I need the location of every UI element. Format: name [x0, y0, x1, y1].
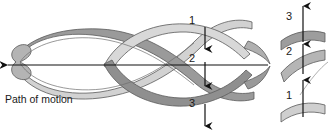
label-side-2: 2: [286, 45, 292, 57]
label-center-1: 1: [189, 14, 195, 26]
label-center-3: 3: [189, 97, 195, 109]
label-center-2: 2: [189, 52, 195, 64]
label-side-1: 1: [286, 89, 292, 101]
path-of-motion-caption: Path of motion: [5, 93, 73, 105]
label-side-3: 3: [286, 10, 292, 22]
wave-ribbon-diagram: 1 2 3 3 2 1 Path of motion: [0, 0, 329, 133]
